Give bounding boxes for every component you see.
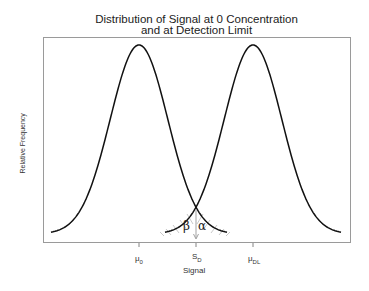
tick-label-sd: SD — [192, 252, 202, 263]
tick-label-mudl: μDL — [248, 254, 260, 265]
tick-label-mu0: μ0 — [135, 254, 143, 265]
x-axis-label: Signal — [183, 266, 205, 275]
alpha-label: α — [198, 219, 206, 233]
curve-mudl — [165, 45, 341, 232]
y-axis-label: Relative Frequency — [19, 114, 26, 174]
beta-label: β — [183, 219, 190, 233]
plot-frame — [44, 38, 351, 243]
overlap-hatching — [160, 214, 230, 236]
curve-mu0 — [51, 45, 227, 232]
chart-plot: β α — [0, 0, 369, 291]
